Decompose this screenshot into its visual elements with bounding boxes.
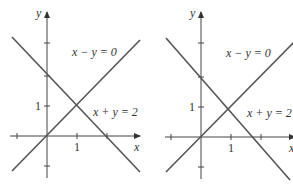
line2-label: x + y = 2: [246, 106, 292, 120]
y-axis-label: y: [189, 6, 196, 20]
right-panel: y x 1 1 x − y = 0 x + y = 2: [165, 6, 293, 180]
y-tick-label: 1: [35, 99, 41, 113]
x-axis-label: x: [133, 140, 140, 154]
line1-label: x − y = 0: [225, 46, 271, 60]
x-tick-label: 1: [228, 141, 234, 155]
line2-label: x + y = 2: [92, 105, 138, 119]
line1-label: x − y = 0: [71, 45, 117, 59]
diagram-canvas: y x 1 1 x − y = 0 x + y = 2 y x 1 1 x − …: [0, 0, 293, 185]
x-axis-label: x: [288, 141, 293, 155]
y-tick-label: 1: [189, 100, 195, 114]
x-tick-label: 1: [74, 140, 80, 154]
left-panel: y x 1 1 x − y = 0 x + y = 2: [10, 6, 140, 178]
y-axis-label: y: [35, 6, 42, 20]
